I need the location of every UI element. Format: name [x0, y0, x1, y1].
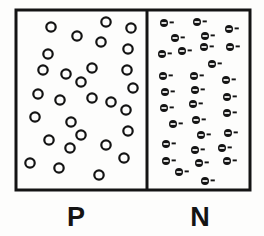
n-region-label: N [190, 202, 210, 232]
p-region-label: P [67, 202, 85, 232]
pn-junction-svg: P N [0, 0, 264, 236]
pn-junction-figure: P N [0, 0, 264, 236]
